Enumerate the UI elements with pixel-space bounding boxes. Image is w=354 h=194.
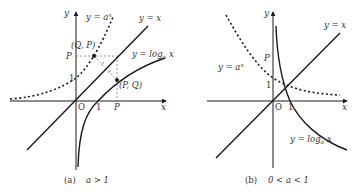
caption-a-condition: a > 1 [86,175,109,185]
point-qp [92,54,96,58]
exp-curve [226,15,340,95]
exp-curve [10,17,113,99]
diagram-canvas: y x O 1 P 1 P y = ax y = x y = loga x (Q… [0,0,354,194]
point-qp-label: (Q, P) [71,40,95,50]
x-axis-label: x [342,102,347,112]
y-tick-p: P [65,51,72,61]
y-axis-label: y [263,8,270,18]
y-tick-p: P [263,53,270,63]
log-curve [78,58,165,167]
log-label: y = loga x [131,49,174,60]
identity-label: y = x [323,20,346,30]
x-axis-label: x [161,102,166,112]
identity-label: y = x [138,13,161,23]
x-tick-one: 1 [288,102,293,112]
y-tick-one: 1 [69,73,74,83]
x-tick-one: 1 [96,102,101,112]
x-tick-p: P [113,102,120,112]
caption-b-tag: (b) [245,175,257,185]
panel-b: y x O 1 1 P y = ax y = x y = loga x (b) … [207,8,347,185]
guide-symmetry [94,56,117,80]
exp-label: y = ax [217,61,244,72]
caption-b-condition: 0 < a < 1 [268,175,309,185]
log-curve [276,26,347,150]
origin-label: O [78,102,85,112]
point-pq-label: (P, Q) [119,80,142,90]
y-tick-one: 1 [266,80,271,90]
panel-a: y x O 1 P 1 P y = ax y = x y = loga x (Q… [10,8,174,185]
y-axis-label: y [63,8,70,18]
origin-label: O [275,102,282,112]
caption-a-tag: (a) [64,175,76,185]
log-label: y = loga x [289,134,332,145]
exp-label: y = ax [85,11,112,22]
